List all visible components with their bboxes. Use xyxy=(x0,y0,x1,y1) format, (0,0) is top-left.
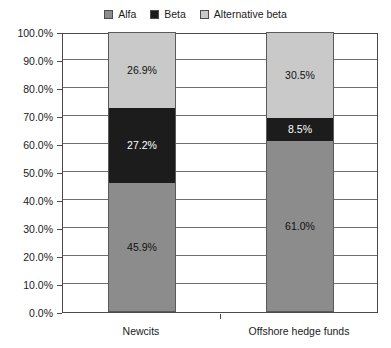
y-axis-tick-label: 50.0% xyxy=(23,167,53,178)
stacked-bar-chart: AlfaBetaAlternative beta 100.0%90.0%80.0… xyxy=(0,0,391,348)
y-axis-tick-label: 100.0% xyxy=(17,27,53,38)
y-axis: 100.0%90.0%80.0%70.0%60.0%50.0%40.0%30.0… xyxy=(0,33,62,314)
x-axis-tick-mark xyxy=(220,314,221,319)
bar-segment-beta[interactable]: 8.5% xyxy=(267,118,333,142)
bars-layer: 45.9%27.2%26.9%61.0%8.5%30.5% xyxy=(63,34,377,312)
y-axis-tick-label: 20.0% xyxy=(23,251,53,262)
plot-area: 45.9%27.2%26.9%61.0%8.5%30.5% xyxy=(62,33,378,313)
legend-swatch-icon xyxy=(150,10,159,19)
y-axis-tick-label: 40.0% xyxy=(23,195,53,206)
segment-value-label: 45.9% xyxy=(127,242,157,253)
bar-segment-beta[interactable]: 27.2% xyxy=(109,108,175,184)
bar-segment-alfa[interactable]: 61.0% xyxy=(267,141,333,311)
chart-legend: AlfaBetaAlternative beta xyxy=(0,9,391,20)
bar-offshore-hedge-funds[interactable]: 61.0%8.5%30.5% xyxy=(266,32,334,312)
y-axis-tick-label: 80.0% xyxy=(23,83,53,94)
bar-segment-alternative-beta[interactable]: 30.5% xyxy=(267,33,333,118)
legend-swatch-icon xyxy=(104,10,113,19)
x-axis-label: Offshore hedge funds xyxy=(249,325,350,337)
legend-label: Alternative beta xyxy=(214,9,287,20)
bar-newcits[interactable]: 45.9%27.2%26.9% xyxy=(108,32,176,312)
legend-item-beta[interactable]: Beta xyxy=(150,9,186,20)
bar-segment-alternative-beta[interactable]: 26.9% xyxy=(109,33,175,108)
y-axis-tick-label: 0.0% xyxy=(29,307,53,318)
bar-segment-alfa[interactable]: 45.9% xyxy=(109,183,175,311)
x-axis: NewcitsOffshore hedge funds xyxy=(62,314,378,348)
segment-value-label: 30.5% xyxy=(285,70,315,81)
y-axis-tick-label: 30.0% xyxy=(23,223,53,234)
segment-value-label: 26.9% xyxy=(127,65,157,76)
x-axis-label: Newcits xyxy=(123,325,160,337)
y-axis-tick-label: 90.0% xyxy=(23,55,53,66)
legend-item-alfa[interactable]: Alfa xyxy=(104,9,136,20)
segment-value-label: 27.2% xyxy=(127,140,157,151)
legend-label: Beta xyxy=(164,9,186,20)
y-axis-tick-label: 10.0% xyxy=(23,279,53,290)
y-axis-tick-label: 70.0% xyxy=(23,111,53,122)
legend-swatch-icon xyxy=(200,10,209,19)
segment-value-label: 61.0% xyxy=(285,221,315,232)
segment-value-label: 8.5% xyxy=(288,124,312,135)
legend-item-alternative-beta[interactable]: Alternative beta xyxy=(200,9,287,20)
legend-label: Alfa xyxy=(118,9,136,20)
y-axis-tick-label: 60.0% xyxy=(23,139,53,150)
